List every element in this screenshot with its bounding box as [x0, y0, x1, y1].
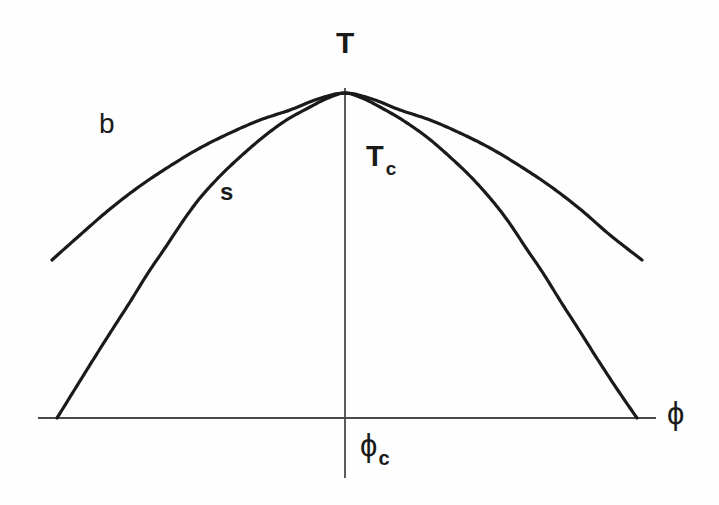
phase-diagram-figure: T Tc b s ϕ ϕc: [0, 0, 719, 505]
y-axis-label: T: [336, 28, 354, 58]
axes-group: [38, 88, 656, 478]
spinodal-curve: [57, 93, 637, 418]
critical-composition-label: ϕc: [360, 430, 389, 461]
binodal-curve: [52, 93, 642, 260]
binodal-curve-label: b: [99, 110, 115, 138]
curves-group: [52, 93, 642, 418]
critical-temperature-symbol: T: [366, 140, 384, 172]
critical-temperature-subscript: c: [386, 158, 397, 179]
spinodal-curve-label: s: [220, 180, 233, 204]
x-axis-label: ϕ: [667, 398, 684, 429]
critical-composition-subscript: c: [378, 447, 389, 469]
critical-composition-symbol: ϕ: [360, 428, 377, 463]
critical-temperature-label: Tc: [366, 142, 394, 171]
